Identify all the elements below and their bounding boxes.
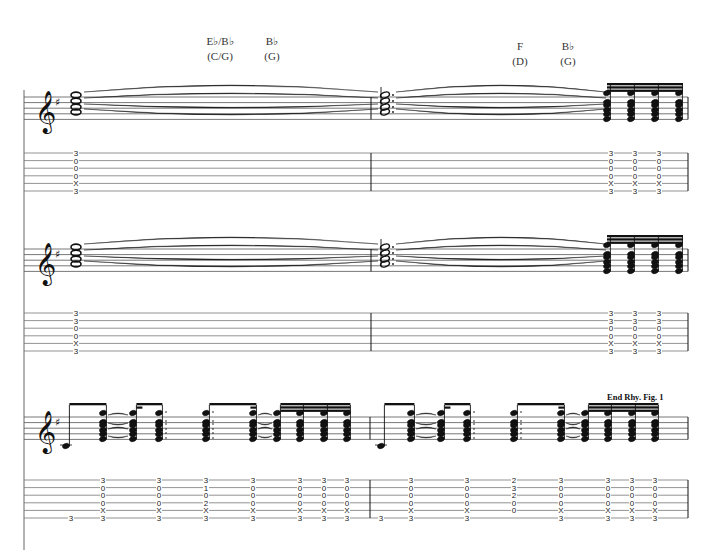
whole-note [71, 250, 81, 256]
augmentation-dot [212, 411, 214, 413]
tie [84, 85, 378, 92]
tab-fret-number: 3 [633, 347, 638, 356]
beam [588, 403, 658, 405]
tie [416, 423, 436, 425]
key-signature-sharp-icon: ♯ [55, 96, 60, 109]
tab-fret-number: 3 [409, 514, 414, 523]
tab-fret-number: 3 [657, 187, 662, 196]
augmentation-dot [520, 437, 522, 439]
tab-fret-number: 3 [609, 347, 614, 356]
key-signature-sharp-icon: ♯ [55, 248, 60, 261]
tie [108, 436, 128, 438]
augmentation-dot [392, 94, 394, 96]
beam [588, 406, 658, 408]
augmentation-dot [520, 420, 522, 422]
augmentation-dot [473, 411, 475, 413]
augmentation-dot [392, 252, 394, 254]
tie [108, 413, 128, 415]
beam [607, 238, 683, 240]
beam [250, 407, 256, 409]
augmentation-dot [520, 411, 522, 413]
beam [607, 83, 683, 85]
beam [607, 235, 683, 237]
tie [416, 413, 436, 415]
tab-fret-number: 3 [653, 514, 658, 523]
beam [444, 407, 450, 409]
whole-note [71, 98, 81, 104]
beam [280, 403, 350, 405]
augmentation-dot [212, 423, 214, 425]
augmentation-dot [392, 246, 394, 248]
treble-clef-icon: 𝄞 [35, 91, 56, 134]
augmentation-dot [392, 100, 394, 102]
tab-fret-number: 3 [69, 514, 74, 523]
chord-capo-label: (C/G) [190, 49, 250, 64]
tab-fret-number: 3 [298, 514, 303, 523]
tie [396, 256, 606, 260]
augmentation-dot [520, 423, 522, 425]
augmentation-dot [212, 437, 214, 439]
chord-name-label: E♭/B♭ [190, 34, 250, 49]
augmentation-dot [212, 428, 214, 430]
beam [69, 403, 106, 405]
augmentation-dot [392, 263, 394, 265]
tab-fret-number: 3 [322, 514, 327, 523]
tab-fret-number: 0 [512, 506, 517, 515]
tie [566, 413, 580, 415]
tab-fret-number: 3 [74, 187, 79, 196]
beam [280, 410, 350, 412]
chord-symbol: B♭(G) [242, 34, 302, 64]
chord-name-label: B♭ [242, 34, 302, 49]
augmentation-dot [520, 428, 522, 430]
tab-fret-number: 3 [657, 347, 662, 356]
tab-fret-number: 3 [345, 514, 350, 523]
beam [607, 242, 683, 244]
beam [384, 403, 414, 405]
tab-fret-number: 3 [101, 514, 106, 523]
tab-fret-number: 3 [559, 514, 564, 523]
tab-fret-number: 3 [633, 187, 638, 196]
tie [84, 256, 378, 260]
chord-capo-label: (G) [538, 54, 598, 69]
system-3: 𝄞♯33000X33000X33102X33000X33000X33000X33… [24, 403, 688, 523]
beam [136, 407, 142, 409]
treble-clef-icon: 𝄞 [35, 243, 56, 286]
tab-fret-number: 3 [251, 514, 256, 523]
tab-fret-number: 3 [379, 514, 384, 523]
beam [607, 86, 683, 88]
beam [444, 403, 470, 405]
augmentation-dot [212, 420, 214, 422]
tie [566, 436, 580, 438]
beam [588, 410, 658, 412]
tie [396, 237, 606, 244]
beam [517, 403, 564, 405]
beam [209, 403, 256, 405]
tab-fret-number: 3 [157, 514, 162, 523]
augmentation-dot [212, 432, 214, 434]
tie [416, 436, 436, 438]
augmentation-dot [392, 258, 394, 260]
tab-fret-number: 3 [630, 514, 635, 523]
tab-fret-number: 3 [204, 514, 209, 523]
tab-fret-number: 3 [465, 514, 470, 523]
chord-name-label: B♭ [538, 39, 598, 54]
chord-symbol: B♭(G) [538, 39, 598, 69]
chord-capo-label: (G) [242, 49, 302, 64]
beam [607, 90, 683, 92]
tab-fret-number: 3 [606, 514, 611, 523]
system-1: 𝄞♯3000X33000X33000X33000X3 [24, 83, 688, 196]
augmentation-dot [473, 423, 475, 425]
augmentation-dot [473, 428, 475, 430]
augmentation-dot [165, 420, 167, 422]
tie [396, 104, 606, 108]
augmentation-dot [520, 432, 522, 434]
augmentation-dot [165, 411, 167, 413]
tie [108, 423, 128, 425]
tie [84, 104, 378, 108]
augmentation-dot [392, 106, 394, 108]
sheet-music-page: 𝄞♯3000X33000X33000X33000X3𝄞♯3300X33300X3… [0, 0, 720, 560]
tab-fret-number: 3 [609, 187, 614, 196]
augmentation-dot [392, 111, 394, 113]
beam [558, 407, 564, 409]
beam [280, 406, 350, 408]
